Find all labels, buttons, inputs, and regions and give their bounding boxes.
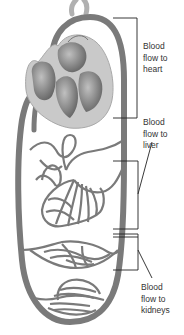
liver-capillaries [30, 135, 124, 226]
label-line: liver [143, 140, 168, 152]
label-blood-flow-to-liver: Blood flow to liver [143, 117, 168, 152]
mid-capillaries [22, 241, 122, 268]
label-blood-flow-to-heart: Blood flow to heart [143, 41, 168, 76]
label-line: kidneys [141, 305, 170, 317]
label-line: flow to [141, 294, 170, 306]
top-vessel-right [84, 0, 87, 14]
label-line: heart [143, 64, 168, 76]
heart [26, 35, 113, 128]
label-line: flow to [143, 129, 168, 141]
label-blood-flow-to-kidneys: Blood flow to kidneys [141, 282, 170, 317]
label-line: Blood [141, 282, 170, 294]
top-vessel-left [71, 0, 76, 14]
label-line: Blood [143, 117, 168, 129]
liver-bracket [113, 142, 152, 229]
label-line: Blood [143, 41, 168, 53]
label-line: flow to [143, 53, 168, 65]
